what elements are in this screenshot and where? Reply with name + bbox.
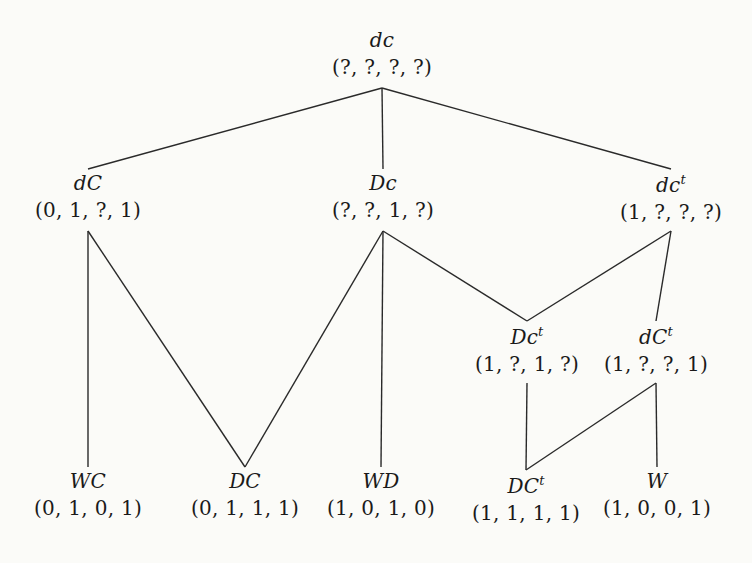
- hasse-diagram: dc(?, ?, ?, ?)dC(0, 1, ?, 1)Dc(?, ?, 1, …: [0, 0, 752, 563]
- node-label: WC: [34, 471, 142, 491]
- node-tuple: (1, ?, 1, ?): [475, 354, 579, 374]
- node-label: Dct: [475, 325, 579, 347]
- node-WC: WC(0, 1, 0, 1): [34, 471, 142, 518]
- node-WD: WD(1, 0, 1, 0): [327, 471, 435, 518]
- node-label: W: [603, 471, 711, 491]
- node-label-superscript: t: [680, 172, 685, 187]
- node-dc: dc(?, ?, ?, ?): [332, 30, 432, 77]
- node-label-superscript: t: [538, 324, 543, 339]
- node-dCt: dCt(1, ?, ?, 1): [604, 325, 708, 374]
- node-tuple: (1, 0, 0, 1): [603, 498, 711, 518]
- node-DCt: DCt(1, 1, 1, 1): [472, 474, 580, 523]
- node-label-superscript: t: [539, 473, 544, 488]
- node-label: Dc: [332, 173, 434, 193]
- node-tuple: (0, 1, 1, 1): [191, 498, 299, 518]
- edge-Dc-to-DC: [245, 231, 383, 467]
- edge-dct-to-Dct: [527, 231, 671, 321]
- node-tuple: (0, 1, ?, 1): [35, 200, 141, 220]
- node-tuple: (?, ?, ?, ?): [332, 57, 432, 77]
- node-tuple: (0, 1, 0, 1): [34, 498, 142, 518]
- node-label-superscript: t: [668, 324, 673, 339]
- node-Dc: Dc(?, ?, 1, ?): [332, 173, 434, 220]
- node-W: W(1, 0, 0, 1): [603, 471, 711, 518]
- node-dct: dct(1, ?, ?, ?): [620, 173, 722, 222]
- node-dC: dC(0, 1, ?, 1): [35, 173, 141, 220]
- node-label: dct: [620, 173, 722, 195]
- edge-dc-to-dC: [88, 88, 382, 169]
- node-tuple: (1, 0, 1, 0): [327, 498, 435, 518]
- edge-dCt-to-W: [656, 383, 657, 467]
- edge-dct-to-dCt: [656, 231, 671, 321]
- edge-Dc-to-WD: [381, 231, 383, 467]
- edge-Dct-to-DCt: [526, 383, 527, 470]
- node-label: DCt: [472, 474, 580, 496]
- node-tuple: (1, ?, ?, ?): [620, 202, 722, 222]
- edge-dc-to-Dc: [382, 88, 383, 169]
- node-tuple: (1, 1, 1, 1): [472, 503, 580, 523]
- node-label: WD: [327, 471, 435, 491]
- node-tuple: (?, ?, 1, ?): [332, 200, 434, 220]
- node-Dct: Dct(1, ?, 1, ?): [475, 325, 579, 374]
- node-label: DC: [191, 471, 299, 491]
- edge-dCt-to-DCt: [526, 383, 656, 470]
- node-label: dCt: [604, 325, 708, 347]
- edge-dC-to-DC: [88, 231, 245, 467]
- node-label: dc: [332, 30, 432, 50]
- edge-dc-to-dct: [382, 88, 671, 169]
- node-tuple: (1, ?, ?, 1): [604, 354, 708, 374]
- edge-Dc-to-Dct: [383, 231, 527, 321]
- node-label: dC: [35, 173, 141, 193]
- node-DC: DC(0, 1, 1, 1): [191, 471, 299, 518]
